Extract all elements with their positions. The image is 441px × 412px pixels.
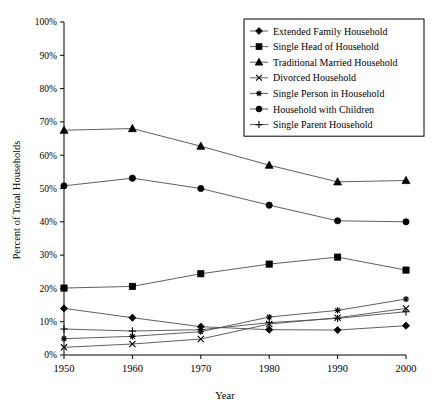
chart-legend: Extended Family HouseholdSingle Head of …: [244, 19, 424, 136]
y-tick-label: 50%: [40, 184, 58, 194]
series-1: [61, 254, 409, 291]
x-tick-label: 1950: [54, 363, 75, 374]
data-point-diamond-marker: [402, 322, 409, 329]
y-axis-ticks: 0%10%20%30%40%50%60%70%80%90%100%: [35, 17, 64, 360]
data-point-star-marker: [335, 307, 341, 313]
legend-item-label: Traditional Married Household: [273, 57, 398, 68]
legend-item-2[interactable]: Traditional Married Household: [250, 57, 398, 68]
chart-container: 0%10%20%30%40%50%60%70%80%90%100% 195019…: [0, 0, 441, 412]
y-tick-label: 10%: [40, 317, 58, 327]
legend-item-label: Extended Family Household: [273, 26, 387, 37]
series-line: [64, 178, 406, 222]
y-tick-label: 30%: [40, 250, 58, 260]
data-point-circle-marker: [256, 106, 262, 112]
x-tick-label: 1970: [190, 363, 211, 374]
data-point-square-marker: [256, 44, 262, 50]
data-point-circle-marker: [198, 185, 204, 191]
data-point-square-marker: [266, 261, 272, 267]
x-axis-title: Year: [215, 390, 235, 401]
data-point-triangle-marker: [129, 124, 137, 131]
data-point-plus-marker: [266, 319, 273, 326]
data-point-square-marker: [198, 271, 204, 277]
series-6: [60, 308, 409, 335]
data-point-square-marker: [403, 267, 409, 273]
data-point-square-marker: [335, 254, 341, 260]
x-tick-label: 1980: [259, 363, 280, 374]
line-chart: 0%10%20%30%40%50%60%70%80%90%100% 195019…: [0, 0, 441, 412]
data-point-diamond-marker: [60, 305, 67, 312]
series-4: [61, 296, 409, 342]
data-point-plus-marker: [60, 325, 67, 332]
legend-item-label: Divorced Household: [273, 72, 356, 83]
y-tick-label: 20%: [40, 284, 58, 294]
x-tick-label: 1990: [327, 363, 348, 374]
y-tick-label: 60%: [40, 151, 58, 161]
legend-item-label: Single Person in Household: [273, 88, 384, 99]
y-tick-label: 80%: [40, 84, 58, 94]
data-point-square-marker: [61, 285, 67, 291]
legend-item-label: Single Head of Household: [273, 41, 379, 52]
series-line: [64, 299, 406, 339]
data-point-plus-marker: [129, 327, 136, 334]
data-point-circle-marker: [129, 175, 135, 181]
data-point-diamond-marker: [129, 314, 136, 321]
y-tick-label: 100%: [35, 17, 57, 27]
data-point-diamond-marker: [334, 326, 341, 333]
data-point-circle-marker: [61, 183, 67, 189]
data-point-square-marker: [129, 283, 135, 289]
y-tick-label: 0%: [44, 350, 57, 360]
data-point-star-marker: [403, 296, 409, 302]
legend-item-label: Household with Children: [273, 104, 374, 115]
data-point-triangle-marker: [402, 176, 410, 183]
y-tick-label: 90%: [40, 51, 58, 61]
series-5: [61, 175, 409, 225]
legend-item-label: Single Parent Household: [273, 119, 372, 130]
series-line: [64, 257, 406, 288]
data-point-star-marker: [61, 336, 67, 342]
y-tick-label: 40%: [40, 217, 58, 227]
data-point-star-marker: [256, 91, 262, 97]
data-point-circle-marker: [266, 202, 272, 208]
y-tick-label: 70%: [40, 117, 58, 127]
y-axis-title: Percent of Total Households: [11, 141, 22, 260]
data-series-layer: [60, 124, 410, 350]
data-point-circle-marker: [335, 218, 341, 224]
series-line: [64, 308, 406, 330]
data-point-circle-marker: [403, 219, 409, 225]
x-axis-ticks: 195019601970198019902000: [54, 355, 417, 374]
x-tick-label: 2000: [396, 363, 417, 374]
series-0: [60, 305, 409, 334]
x-tick-label: 1960: [122, 363, 143, 374]
